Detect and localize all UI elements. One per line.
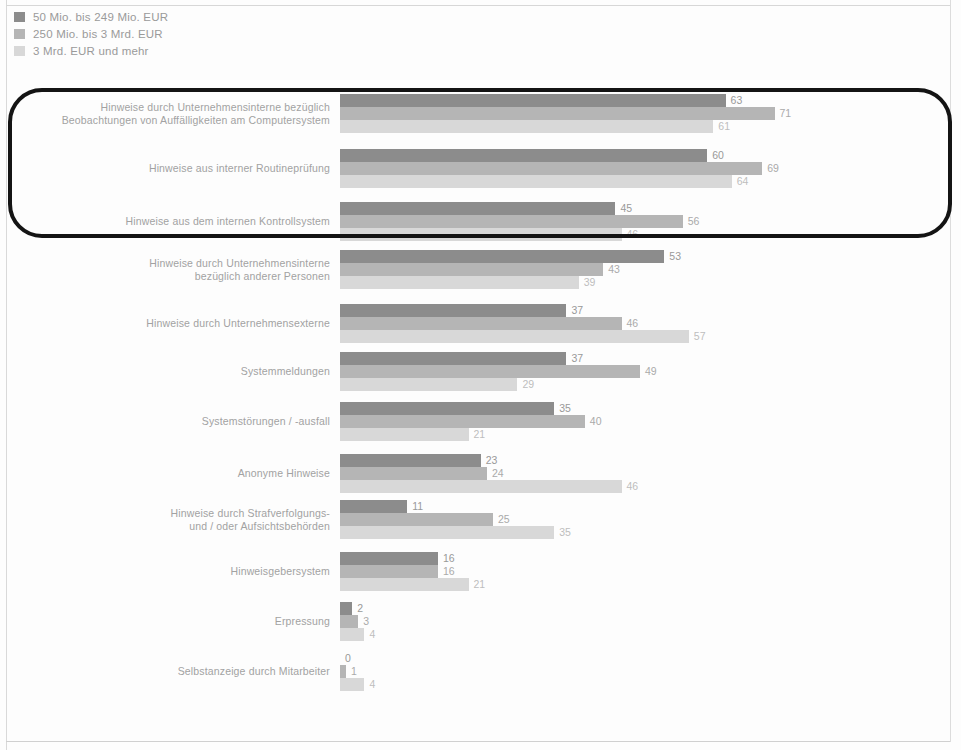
legend-item-label: 250 Mio. bis 3 Mrd. EUR [33,28,163,40]
bar-group: Hinweise aus interner Routineprüfung6069… [0,149,961,188]
bar [340,602,352,615]
bar [340,149,707,162]
category-label-line: Hinweise durch Strafverfolgungs- [40,507,330,520]
category-label: Hinweisgebersystem [40,565,330,578]
bar-row [340,415,585,428]
category-label: Erpressung [40,615,330,628]
category-label: Hinweise durch Unternehmensexterne [40,317,330,330]
bar-row [340,552,438,565]
category-label: Selbstanzeige durch Mitarbeiter [40,665,330,678]
bar-value-label: 1 [351,665,357,678]
bar-row [340,467,487,480]
bar-value-label: 35 [559,402,571,415]
legend-item-label: 3 Mrd. EUR und mehr [33,45,149,57]
bar-group: Hinweise durch Strafverfolgungs-und / od… [0,500,961,539]
bar-group: Selbstanzeige durch Mitarbeiter014 [0,652,961,691]
bar [340,304,566,317]
bar-value-label: 16 [443,565,455,578]
bar-value-label: 21 [474,428,486,441]
bar-chart: Umsatz in Prozent Hinweise durch Unterne… [0,82,961,750]
bar-row [340,276,579,289]
page-frame-top-edge [6,5,950,6]
bar-row [340,352,566,365]
bar-value-label: 71 [780,107,792,120]
bar [340,162,762,175]
bar [340,615,358,628]
bar-group: Systemmeldungen374929 [0,352,961,391]
legend-item: 50 Mio. bis 249 Mio. EUR [14,8,414,25]
bar-row [340,215,683,228]
legend-item-label: 50 Mio. bis 249 Mio. EUR [33,11,168,23]
bar-value-label: 46 [627,317,639,330]
bar-group: Systemstörungen / -ausfall354021 [0,402,961,441]
bar-row [340,480,622,493]
bar-value-label: 16 [443,552,455,565]
bar-value-label: 60 [712,149,724,162]
bar [340,94,726,107]
bar-value-label: 37 [571,304,583,317]
bar-row [340,678,364,691]
bar-row [340,578,469,591]
category-label-line: Hinweise durch Unternehmensinterne [40,257,330,270]
bar-row [340,202,615,215]
bar [340,250,664,263]
bar-group: Hinweise durch Unternehmensexterne374657 [0,304,961,343]
bar-value-label: 4 [369,678,375,691]
bar-value-label: 11 [412,500,423,513]
bar-value-label: 43 [608,263,620,276]
bar-value-label: 57 [694,330,706,343]
scanned-page: 50 Mio. bis 249 Mio. EUR250 Mio. bis 3 M… [0,0,961,750]
bar-row [340,628,364,641]
bar [340,578,469,591]
bar-row [340,378,517,391]
bar [340,565,438,578]
bar [340,276,579,289]
category-label: Hinweise durch Unternehmensinternebezügl… [40,257,330,282]
bar [340,415,585,428]
chart-legend: 50 Mio. bis 249 Mio. EUR250 Mio. bis 3 M… [14,8,414,59]
bar-value-label: 2 [357,602,363,615]
bar [340,500,407,513]
bar-row [340,615,358,628]
bar [340,513,493,526]
bar-row [340,94,726,107]
bar-value-label: 29 [522,378,534,391]
bar-value-label: 24 [492,467,504,480]
category-label: Anonyme Hinweise [40,467,330,480]
category-label-line: Hinweise aus dem internen Kontrollsystem [40,215,330,228]
bar [340,665,346,678]
bar [340,215,683,228]
bar-value-label: 37 [571,352,583,365]
bar-row [340,602,352,615]
bar-row [340,304,566,317]
category-label: Hinweise aus interner Routineprüfung [40,162,330,175]
bar-row [340,565,438,578]
bar-value-label: 64 [737,175,749,188]
bar [340,202,615,215]
bar [340,526,554,539]
bar-value-label: 4 [369,628,375,641]
bar-group: Erpressung234 [0,602,961,641]
bar [340,175,732,188]
category-label-line: bezüglich anderer Personen [40,270,330,283]
bar-row [340,500,407,513]
bar-value-label: 63 [731,94,743,107]
bar [340,480,622,493]
bar-value-label: 3 [363,615,369,628]
bar-row [340,513,493,526]
bar-group: Anonyme Hinweise232446 [0,454,961,493]
bar-row [340,107,775,120]
legend-swatch-icon [14,29,25,39]
bar-row [340,402,554,415]
bar [340,402,554,415]
category-label-line: Hinweise durch Unternehmensinterne bezüg… [40,101,330,114]
bar-row [340,162,762,175]
category-label-line: Erpressung [40,615,330,628]
bar-row [340,120,713,133]
bar-row [340,317,622,330]
legend-swatch-icon [14,46,25,56]
bar [340,352,566,365]
bar-row [340,365,640,378]
category-label: Systemstörungen / -ausfall [40,415,330,428]
category-label: Hinweise durch Strafverfolgungs-und / od… [40,507,330,532]
